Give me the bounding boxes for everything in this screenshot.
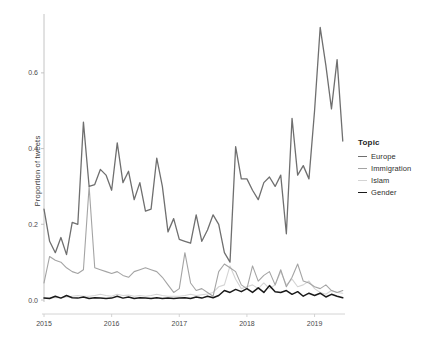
legend-swatch-islam (358, 180, 367, 181)
legend-swatch-europe (358, 156, 367, 157)
legend: Topic Europe Immigration Islam Gender (358, 138, 434, 199)
legend-label-immigration: Immigration (371, 164, 411, 173)
legend-item-europe[interactable]: Europe (358, 151, 434, 162)
legend-item-immigration[interactable]: Immigration (358, 163, 434, 174)
y-tick-label: 0.4 (28, 145, 38, 152)
legend-label-europe: Europe (371, 152, 396, 161)
legend-label-gender: Gender (371, 188, 397, 197)
legend-title: Topic (358, 138, 434, 147)
legend-label-islam: Islam (371, 176, 389, 185)
x-tick-label: 2015 (36, 320, 52, 327)
legend-swatch-immigration (358, 168, 367, 169)
legend-item-islam[interactable]: Islam (358, 175, 434, 186)
legend-item-gender[interactable]: Gender (358, 187, 434, 198)
plot-area: Proportion of tweets 0.00.20.40.62015201… (0, 0, 350, 342)
y-tick-label: 0.6 (28, 69, 38, 76)
line-chart: Proportion of tweets 0.00.20.40.62015201… (0, 0, 435, 342)
legend-swatch-gender (358, 192, 367, 193)
y-tick-label: 0.0 (28, 297, 38, 304)
y-tick-label: 0.2 (28, 221, 38, 228)
x-tick-label: 2016 (104, 320, 120, 327)
series-line-islam (44, 266, 343, 298)
series-line-europe (44, 27, 343, 262)
x-tick-label: 2017 (171, 320, 187, 327)
x-tick-label: 2019 (307, 320, 323, 327)
series-line-immigration (44, 186, 343, 296)
x-tick-label: 2018 (239, 320, 255, 327)
chart-canvas: 0.00.20.40.620152016201720182019 (0, 0, 350, 342)
